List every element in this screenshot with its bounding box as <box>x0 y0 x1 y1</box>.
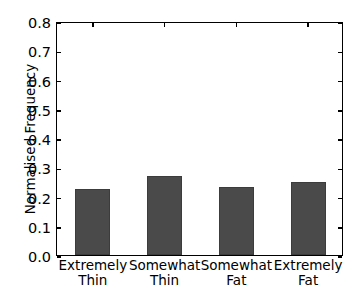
chart-figure: Normalised Frequency 0.00.10.20.30.40.50… <box>0 0 362 304</box>
y-tick-mark-right <box>338 81 342 83</box>
y-tick-mark <box>57 110 61 112</box>
y-tick-label: 0.4 <box>28 131 51 149</box>
y-tick-mark-right <box>338 22 342 24</box>
bar <box>291 182 326 255</box>
y-tick-mark-right <box>338 198 342 200</box>
y-tick-mark <box>57 227 61 229</box>
y-tick-mark-right <box>338 139 342 141</box>
y-tick-mark <box>57 198 61 200</box>
y-tick-mark-right <box>338 52 342 54</box>
x-tick-label: Extremely Fat <box>248 258 362 288</box>
y-tick-label: 0.3 <box>28 160 51 178</box>
bar <box>219 187 254 255</box>
y-tick-mark <box>57 139 61 141</box>
y-tick-mark-right <box>338 110 342 112</box>
y-tick-mark <box>57 81 61 83</box>
y-tick-mark-right <box>338 169 342 171</box>
y-tick-mark <box>57 52 61 54</box>
plot-area: 0.00.10.20.30.40.50.60.70.8 Extremely Th… <box>56 22 343 256</box>
y-tick-label: 0.2 <box>28 190 51 208</box>
x-tick-mark-top <box>164 23 166 27</box>
y-tick-label: 0.7 <box>28 43 51 61</box>
y-tick-mark <box>57 22 61 24</box>
y-tick-label: 0.8 <box>28 14 51 32</box>
x-tick-mark-top <box>92 23 94 27</box>
bar <box>75 189 110 255</box>
y-tick-label: 0.1 <box>28 219 51 237</box>
y-tick-label: 0.5 <box>28 102 51 120</box>
y-tick-mark <box>57 169 61 171</box>
y-tick-mark-right <box>338 227 342 229</box>
bar <box>147 176 182 255</box>
y-tick-label: 0.6 <box>28 73 51 91</box>
x-tick-mark-top <box>236 23 238 27</box>
x-tick-mark-top <box>307 23 309 27</box>
